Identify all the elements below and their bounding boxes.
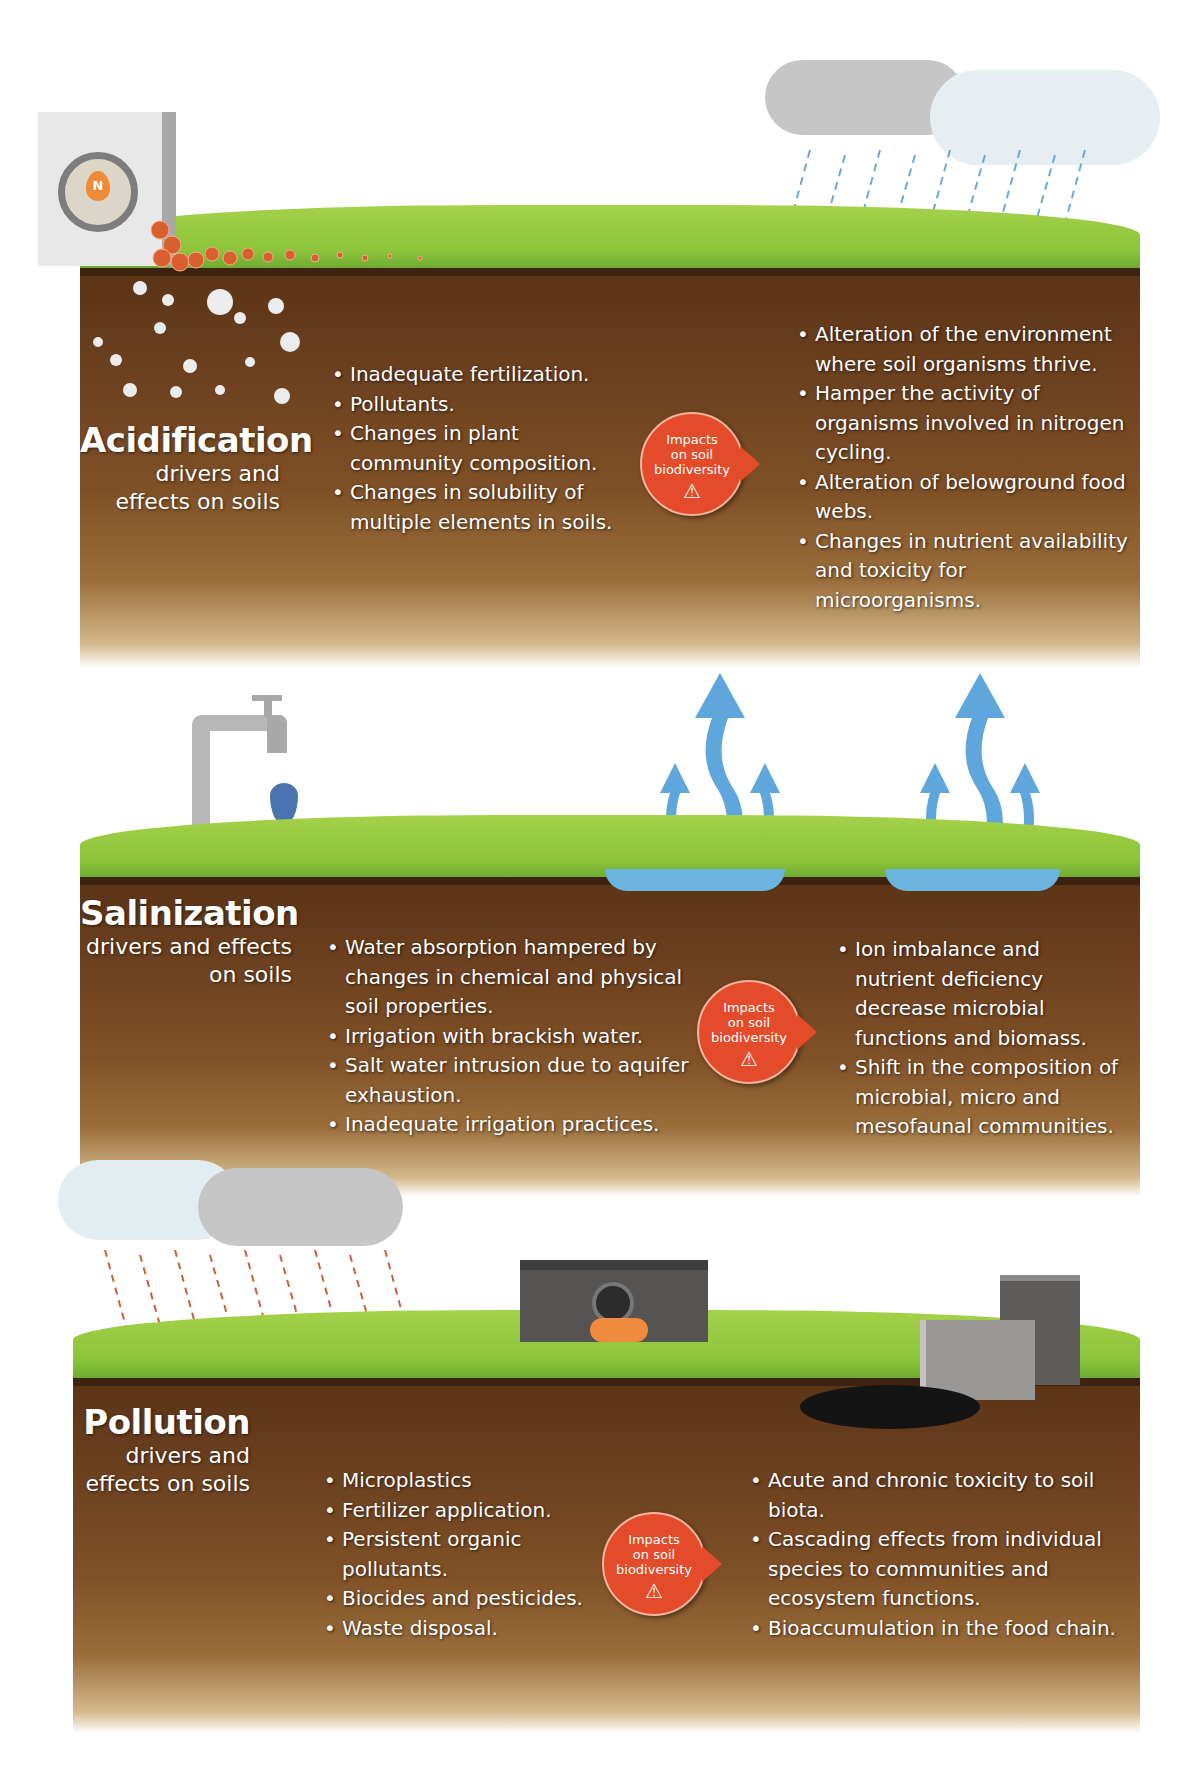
driver-item: Salt water intrusion due to aquifer exha… bbox=[325, 1051, 695, 1110]
waste-pipe-icon bbox=[520, 1260, 708, 1342]
title: Salinization bbox=[80, 893, 292, 933]
impact-label-1: Impacts bbox=[699, 1000, 799, 1015]
impact-badge: Impacts on soil biodiversity ⚠ bbox=[602, 1512, 712, 1616]
effect-item: Changes in nutrient availability and tox… bbox=[795, 527, 1135, 616]
subtitle-line2: effects on soils bbox=[80, 488, 280, 516]
driver-item: Irrigation with brackish water. bbox=[325, 1022, 695, 1052]
driver-item: Inadequate irrigation practices. bbox=[325, 1110, 695, 1140]
effect-item: Bioaccumulation in the food chain. bbox=[748, 1614, 1118, 1644]
impact-label-3: biodiversity bbox=[604, 1562, 704, 1577]
driver-item: Water absorption hampered by changes in … bbox=[325, 933, 695, 1022]
effect-item: Hamper the activity of organisms involve… bbox=[795, 379, 1135, 468]
subtitle-line2: on soils bbox=[80, 961, 292, 989]
impact-circle: Impacts on soil biodiversity ⚠ bbox=[640, 412, 744, 516]
effect-item: Shift in the composition of microbial, m… bbox=[835, 1053, 1125, 1142]
title: Pollution bbox=[60, 1402, 250, 1442]
impact-label-3: biodiversity bbox=[642, 462, 742, 477]
effect-item: Alteration of belowground food webs. bbox=[795, 468, 1135, 527]
driver-item: Inadequate fertilization. bbox=[330, 360, 620, 390]
salt-puddle bbox=[605, 869, 785, 891]
nitrogen-label: N bbox=[86, 171, 110, 201]
section-title-salinization: Salinization drivers and effects on soil… bbox=[80, 893, 292, 989]
impact-label-1: Impacts bbox=[604, 1532, 704, 1547]
subtitle-line1: drivers and effects bbox=[80, 933, 292, 961]
driver-item: Waste disposal. bbox=[322, 1614, 612, 1644]
drivers-list: Water absorption hampered by changes in … bbox=[325, 933, 695, 1140]
effects-list: Acute and chronic toxicity to soil biota… bbox=[748, 1466, 1118, 1643]
warning-triangle-icon: ⚠ bbox=[645, 1581, 663, 1601]
driver-item: Persistent organic pollutants. bbox=[322, 1525, 612, 1584]
subtitle-line1: drivers and bbox=[80, 460, 280, 488]
driver-item: Changes in solubility of multiple elemen… bbox=[330, 478, 620, 537]
driver-item: Fertilizer application. bbox=[322, 1496, 612, 1526]
arrow-right-icon bbox=[702, 1546, 722, 1582]
impact-label-2: on soil bbox=[604, 1547, 704, 1562]
panel-salinization: Salinization drivers and effects on soil… bbox=[0, 655, 1202, 1195]
drivers-list: Microplastics Fertilizer application. Pe… bbox=[322, 1466, 612, 1643]
warning-triangle-icon: ⚠ bbox=[683, 481, 701, 501]
impact-badge: Impacts on soil biodiversity ⚠ bbox=[640, 412, 750, 516]
subtitle-line1: drivers and bbox=[60, 1442, 250, 1470]
oil-spill bbox=[800, 1385, 980, 1429]
driver-item: Pollutants. bbox=[330, 390, 620, 420]
effect-item: Ion imbalance and nutrient deficiency de… bbox=[835, 935, 1125, 1053]
effects-list: Ion imbalance and nutrient deficiency de… bbox=[835, 935, 1125, 1142]
effect-item: Cascading effects from individual specie… bbox=[748, 1525, 1118, 1614]
arrow-right-icon bbox=[797, 1014, 817, 1050]
section-title-acidification: Acidification drivers and effects on soi… bbox=[80, 420, 280, 516]
impact-label-3: biodiversity bbox=[699, 1030, 799, 1045]
toxic-barrels-icon bbox=[920, 1275, 1080, 1405]
driver-item: Biocides and pesticides. bbox=[322, 1584, 612, 1614]
title: Acidification bbox=[80, 420, 280, 460]
impact-badge: Impacts on soil biodiversity ⚠ bbox=[697, 980, 807, 1084]
impact-label-2: on soil bbox=[642, 447, 742, 462]
acid-rain-cloud-icon bbox=[198, 1168, 403, 1246]
effect-item: Alteration of the environment where soil… bbox=[795, 320, 1135, 379]
warning-triangle-icon: ⚠ bbox=[740, 1049, 758, 1069]
impact-circle: Impacts on soil biodiversity ⚠ bbox=[697, 980, 801, 1084]
driver-item: Changes in plant community composition. bbox=[330, 419, 620, 478]
salt-puddle bbox=[885, 869, 1060, 891]
panel-acidification: N Acidification drivers and effects on s… bbox=[0, 0, 1202, 670]
effects-list: Alteration of the environment where soil… bbox=[795, 320, 1135, 615]
white-particles bbox=[90, 270, 350, 410]
panel-pollution: Pollution drivers and effects on soils M… bbox=[0, 1160, 1202, 1773]
driver-item: Microplastics bbox=[322, 1466, 612, 1496]
effect-item: Acute and chronic toxicity to soil biota… bbox=[748, 1466, 1118, 1525]
impact-circle: Impacts on soil biodiversity ⚠ bbox=[602, 1512, 706, 1616]
impact-label-2: on soil bbox=[699, 1015, 799, 1030]
drivers-list: Inadequate fertilization. Pollutants. Ch… bbox=[330, 360, 620, 537]
impact-label-1: Impacts bbox=[642, 432, 742, 447]
section-title-pollution: Pollution drivers and effects on soils bbox=[60, 1402, 250, 1498]
subtitle-line2: effects on soils bbox=[60, 1470, 250, 1498]
arrow-right-icon bbox=[740, 446, 760, 482]
